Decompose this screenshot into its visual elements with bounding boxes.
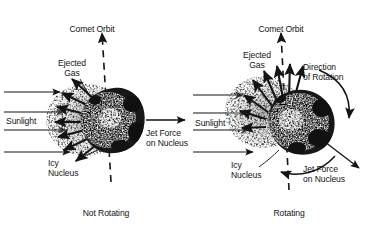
icy-nucleus-label: Icy Nucleus (231, 160, 261, 180)
ejected-gas-label: Ejected Gas (44, 58, 100, 78)
panel-not-rotating: Comet Orbit Ejected Gas Sunlight Icy Nuc… (0, 0, 190, 235)
direction-of-rotation-label: Direction of Rotation (303, 62, 343, 82)
comet-jet-force-figure: Comet Orbit Ejected Gas Sunlight Icy Nuc… (0, 0, 381, 235)
sunlight-label: Sunlight (195, 118, 225, 128)
jet-force-label: Jet Force on Nucleus (303, 164, 345, 184)
ejected-gas-label: Ejected Gas (229, 50, 285, 70)
orbit-label: Comet Orbit (245, 24, 317, 34)
sunlight-label: Sunlight (6, 116, 36, 126)
orbit-label: Comet Orbit (56, 24, 128, 34)
icy-nucleus-label: Icy Nucleus (48, 158, 78, 178)
panel-rotating: Comet Orbit Ejected Gas Sunlight Directi… (191, 0, 381, 235)
rotation-state-label: Rotating (249, 208, 329, 218)
icy-nucleus-leader (259, 150, 279, 167)
jet-force-label: Jet Force on Nucleus (146, 128, 188, 148)
rotation-state-label: Not Rotating (62, 208, 150, 218)
